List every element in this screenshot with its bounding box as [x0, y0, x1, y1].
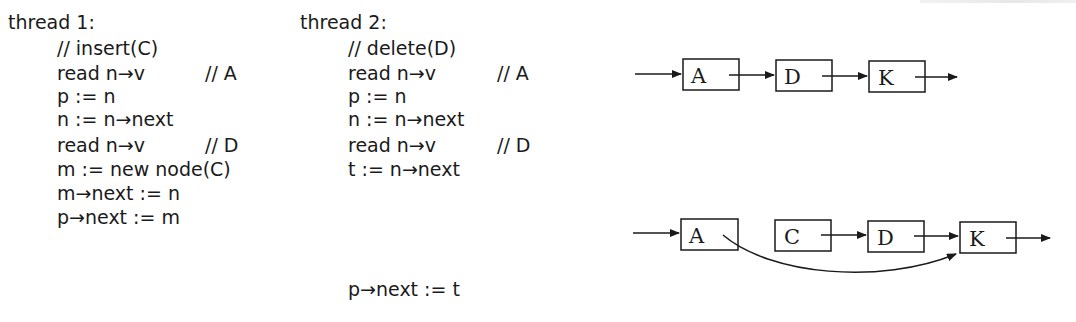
node-label-K: K — [969, 227, 985, 251]
bypass-arrow-A-to-K — [723, 235, 956, 272]
node-label-D: D — [877, 226, 894, 250]
linked-list-diagrams: A D K A C D K — [0, 0, 1076, 322]
node-label-K: K — [878, 66, 894, 90]
node-label-A: A — [688, 224, 705, 248]
node-label-D: D — [784, 65, 801, 89]
node-label-A: A — [690, 64, 707, 88]
node-label-C: C — [784, 225, 800, 249]
